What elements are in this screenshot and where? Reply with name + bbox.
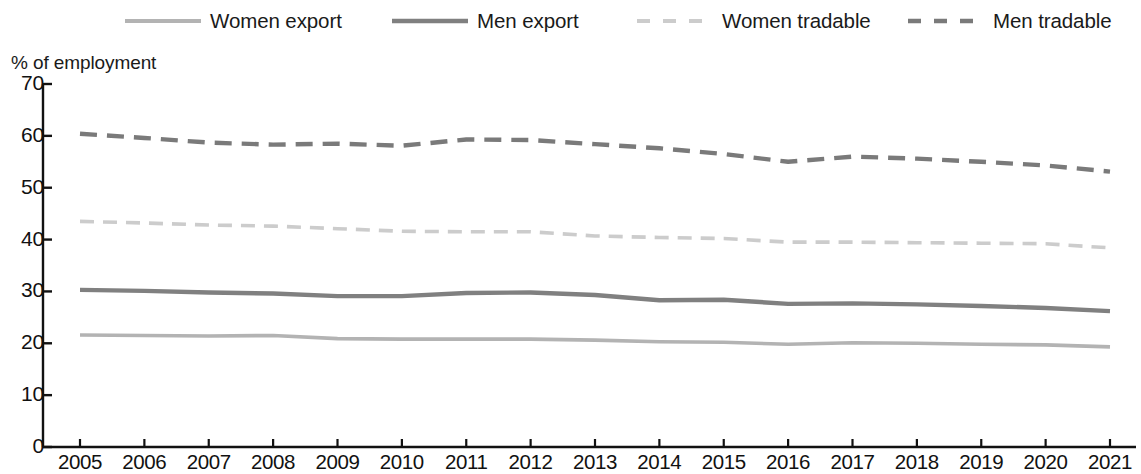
y-axis-tick-label: 50 [0, 175, 44, 199]
x-axis-tick-label: 2015 [689, 450, 759, 474]
x-axis-tick-label: 2012 [496, 450, 566, 474]
x-axis-tick-label: 2019 [946, 450, 1016, 474]
x-axis-tick-label: 2013 [560, 450, 630, 474]
y-axis-tick-label: 60 [0, 123, 44, 147]
y-axis-tick-label: 70 [0, 71, 44, 95]
x-axis-tick-label: 2007 [174, 450, 244, 474]
y-axis-tick-label: 40 [0, 227, 44, 251]
series-line-women-tradable [80, 221, 1110, 247]
x-axis-tick-label: 2017 [818, 450, 888, 474]
series-line-women-export [80, 335, 1110, 347]
y-axis-tick-label: 20 [0, 330, 44, 354]
x-axis-tick-label: 2016 [753, 450, 823, 474]
x-axis-tick-label: 2011 [431, 450, 501, 474]
x-axis-tick-label: 2006 [109, 450, 179, 474]
y-axis-tick-label: 0 [0, 434, 44, 458]
employment-share-line-chart: Women export Men export Women tradable M… [0, 0, 1141, 474]
plot-area: 706050403020100 200520062007200820092010… [0, 0, 1141, 474]
series-line-men-tradable [80, 134, 1110, 172]
x-axis-tick-label: 2021 [1075, 450, 1141, 474]
x-axis-tick-label: 2009 [303, 450, 373, 474]
data-series-group [80, 134, 1110, 347]
axis-lines [43, 84, 1136, 447]
x-axis-tick-label: 2005 [45, 450, 115, 474]
y-axis-tick-label: 30 [0, 278, 44, 302]
x-axis-tick-label: 2010 [367, 450, 437, 474]
y-axis-tick-label: 10 [0, 382, 44, 406]
plot-svg [0, 0, 1141, 474]
axis-ticks [43, 84, 1110, 447]
series-line-men-export [80, 290, 1110, 311]
x-axis-tick-label: 2020 [1011, 450, 1081, 474]
x-axis-tick-label: 2008 [238, 450, 308, 474]
x-axis-tick-label: 2018 [882, 450, 952, 474]
x-axis-tick-label: 2014 [624, 450, 694, 474]
